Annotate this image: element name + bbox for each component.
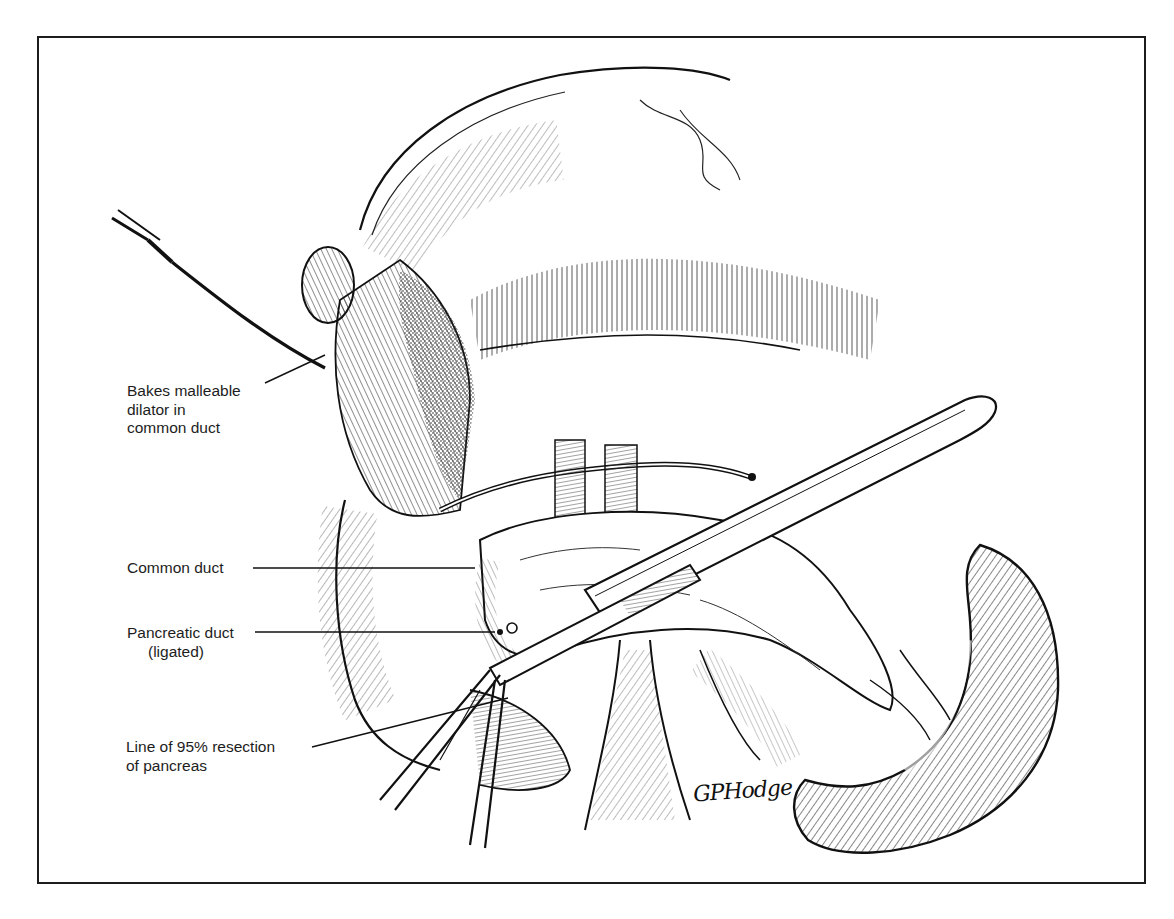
label-bakes-dilator: Bakes malleable dilator in common duct [127, 382, 241, 438]
mesentery-fringe [470, 259, 880, 360]
label-pancreatic-duct: Pancreatic duct (ligated) [127, 624, 234, 661]
label-line: (ligated) [127, 643, 234, 662]
label-line: common duct [127, 419, 241, 438]
label-line: Pancreatic duct [127, 624, 234, 643]
label-resection-line: Line of 95% resection of pancreas [126, 738, 275, 775]
label-line: Bakes malleable [127, 382, 241, 401]
label-line: of pancreas [126, 757, 275, 776]
surgical-illustration [0, 0, 1174, 919]
label-line: dilator in [127, 401, 241, 420]
vessels [440, 440, 756, 520]
label-line: Line of 95% resection [126, 738, 275, 757]
bakes-dilator [112, 210, 326, 368]
liver-dome [360, 68, 740, 260]
main-organ-body [335, 260, 475, 516]
label-line: Common duct [127, 559, 223, 578]
label-common-duct: Common duct [127, 559, 223, 578]
